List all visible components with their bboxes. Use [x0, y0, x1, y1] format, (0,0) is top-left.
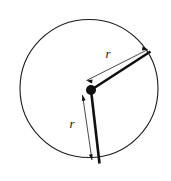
lower-radius-line	[91, 90, 100, 164]
circle-radius-diagram: r r	[0, 0, 171, 181]
lower-radius-label: r	[69, 116, 75, 131]
lower-dimension-line	[82, 95, 93, 160]
upper-radius-line	[91, 52, 151, 91]
lower-dimension-arrow-start	[82, 95, 86, 101]
upper-radius-label: r	[105, 46, 111, 61]
figure-container: r r	[0, 0, 171, 181]
center-dot	[86, 85, 96, 95]
upper-dimension-line	[87, 47, 149, 84]
